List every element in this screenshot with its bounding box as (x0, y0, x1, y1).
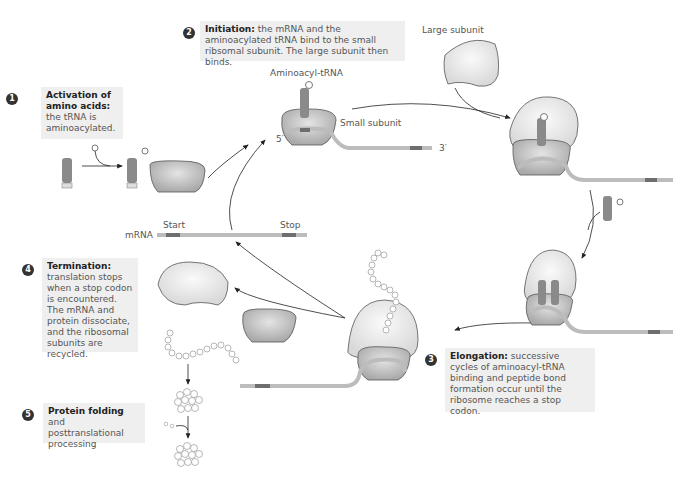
mrna-label: mRNA (125, 230, 153, 240)
folded-protein-icon (175, 389, 203, 413)
start-codon (166, 233, 180, 237)
translation-diagram: 1 Activation of amino acids: the tRNA is… (0, 0, 673, 479)
aminoacyl-trna-icon (127, 148, 148, 188)
small-subunit-label: Small subunit (340, 118, 401, 128)
large-subunit-label: Large subunit (422, 25, 484, 35)
trna-icon (62, 158, 72, 188)
processed-protein-icon (175, 443, 203, 467)
step-1-title: Activation of amino acids: (46, 90, 111, 111)
step-3-caption: Elongation: successive cycles of aminoac… (445, 348, 595, 412)
step-5-title: Protein folding (48, 406, 124, 416)
codon (410, 146, 422, 150)
step-2-caption: Initiation: the mRNA and the aminoacylat… (200, 21, 405, 61)
step-5-caption: Protein folding and posttranslational pr… (43, 403, 145, 443)
step-1-badge: 1 (6, 93, 18, 105)
step-5-badge: 5 (22, 409, 34, 421)
aminoacyl-trna-label: Aminoacyl-tRNA (270, 68, 343, 78)
step-1-caption: Activation of amino acids: the tRNA is a… (41, 87, 123, 139)
trna-icon (537, 118, 546, 146)
three-prime-label: 3′ (439, 143, 447, 153)
step-4-title: Termination: (47, 261, 111, 271)
trna-icon (603, 196, 612, 221)
step-4-body: translation stops when a stop codon is e… (47, 272, 132, 359)
small-subunit-icon (243, 309, 296, 342)
start-label: Start (163, 220, 185, 230)
released-protein-chain (165, 330, 239, 363)
large-subunit-icon (158, 262, 228, 305)
step-4-badge: 4 (22, 264, 34, 276)
step-4-caption: Termination: translation stops when a st… (42, 258, 138, 352)
step-3-title: Elongation: (450, 351, 508, 361)
five-prime-label: 5′ (276, 134, 284, 144)
step-3-badge: 3 (425, 354, 437, 366)
stop-label: Stop (280, 220, 300, 230)
small-subunit-icon (150, 161, 205, 192)
trna-icon (300, 88, 309, 118)
step-1-body: the tRNA is aminoacylated. (46, 112, 115, 133)
step-2-badge: 2 (183, 27, 195, 39)
step-2-title: Initiation: (205, 24, 255, 34)
large-subunit-icon (444, 40, 499, 86)
amino-acid-icon (92, 145, 98, 151)
stop-codon (282, 233, 296, 237)
